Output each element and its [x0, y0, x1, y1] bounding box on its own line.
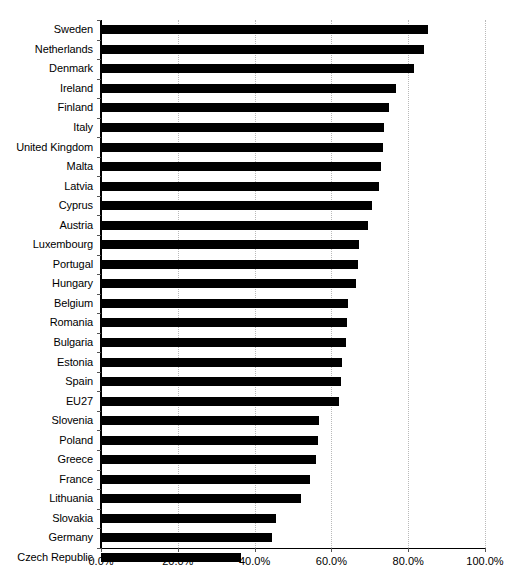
bar-row [101, 313, 485, 333]
bar-portugal [101, 260, 358, 269]
plot-area [101, 20, 485, 548]
bar-hungary [101, 279, 356, 288]
y-axis-label-row: Germany [0, 528, 101, 548]
bar-united-kingdom [101, 143, 383, 152]
bar-row [101, 352, 485, 372]
y-axis-label-spain: Spain [65, 376, 101, 387]
gridline-100.0% [485, 20, 487, 548]
bar-row [101, 333, 485, 353]
y-axis-label-row: Belgium [0, 294, 101, 314]
x-axis-label-0.0%: 0.0% [88, 555, 113, 567]
bar-luxembourg [101, 240, 359, 249]
y-axis-label-malta: Malta [67, 161, 101, 172]
bar-bulgaria [101, 338, 346, 347]
x-axis-tick [408, 548, 409, 552]
y-axis-label-row: Ireland [0, 79, 101, 99]
y-axis-label-austria: Austria [59, 220, 101, 231]
y-axis-label-united-kingdom: United Kingdom [16, 142, 101, 153]
y-axis-label-row: Portugal [0, 255, 101, 275]
y-axis-label-poland: Poland [59, 435, 101, 446]
y-axis-label-row: Slovenia [0, 411, 101, 431]
bar-chart: SwedenNetherlandsDenmarkIrelandFinlandIt… [0, 0, 512, 579]
y-axis-label-latvia: Latvia [64, 181, 101, 192]
y-axis-label-row: Denmark [0, 59, 101, 79]
bar-eu27 [101, 397, 339, 406]
y-axis-label-row: Italy [0, 118, 101, 138]
y-axis-label-row: Spain [0, 372, 101, 392]
bar-row [101, 20, 485, 40]
bar-netherlands [101, 45, 424, 54]
y-axis-label-germany: Germany [48, 532, 101, 543]
x-axis-tick [255, 548, 256, 552]
y-axis-label-row: France [0, 470, 101, 490]
y-axis-label-denmark: Denmark [49, 63, 101, 74]
y-axis-label-luxembourg: Luxembourg [33, 239, 101, 250]
bar-row [101, 470, 485, 490]
bar-sweden [101, 25, 428, 34]
y-axis-label-row: Cyprus [0, 196, 101, 216]
y-axis-label-bulgaria: Bulgaria [53, 337, 101, 348]
bar-germany [101, 533, 272, 542]
y-axis-label-slovakia: Slovakia [52, 513, 101, 524]
y-axis-label-row: Malta [0, 157, 101, 177]
x-axis-label-20.0%: 20.0% [162, 555, 193, 567]
y-axis-label-row: Romania [0, 313, 101, 333]
bar-austria [101, 221, 368, 230]
bar-slovakia [101, 514, 276, 523]
chart-title [0, 0, 512, 6]
bar-row [101, 274, 485, 294]
bar-denmark [101, 64, 414, 73]
x-axis-label-60.0%: 60.0% [316, 555, 347, 567]
y-axis-label-greece: Greece [58, 454, 101, 465]
bar-belgium [101, 299, 348, 308]
bar-row [101, 450, 485, 470]
bar-estonia [101, 358, 342, 367]
y-axis-label-ireland: Ireland [60, 83, 101, 94]
y-axis-label-row: Hungary [0, 274, 101, 294]
x-axis-label-80.0%: 80.0% [393, 555, 424, 567]
y-axis-label-row: Latvia [0, 176, 101, 196]
bar-row [101, 509, 485, 529]
bar-romania [101, 318, 347, 327]
y-axis-label-sweden: Sweden [54, 24, 101, 35]
y-axis-label-france: France [59, 474, 101, 485]
y-axis-label-row: Estonia [0, 352, 101, 372]
y-axis-label-italy: Italy [73, 122, 101, 133]
bar-row [101, 372, 485, 392]
y-axis-label-lithuania: Lithuania [49, 493, 101, 504]
bar-row [101, 430, 485, 450]
y-axis-label-belgium: Belgium [54, 298, 101, 309]
bar-ireland [101, 84, 396, 93]
bar-row [101, 157, 485, 177]
bar-row [101, 176, 485, 196]
bar-row [101, 98, 485, 118]
bar-row [101, 528, 485, 548]
y-axis-label-row: EU27 [0, 391, 101, 411]
bar-cyprus [101, 201, 372, 210]
bar-finland [101, 103, 389, 112]
bar-row [101, 196, 485, 216]
y-axis-label-row: Poland [0, 430, 101, 450]
bar-poland [101, 436, 318, 445]
y-axis-label-slovenia: Slovenia [52, 415, 101, 426]
bar-row [101, 79, 485, 99]
y-axis-label-netherlands: Netherlands [35, 44, 101, 55]
y-axis-label-portugal: Portugal [53, 259, 101, 270]
y-axis-label-row: Luxembourg [0, 235, 101, 255]
bar-lithuania [101, 494, 301, 503]
y-axis-label-row: Greece [0, 450, 101, 470]
x-axis-label-40.0%: 40.0% [239, 555, 270, 567]
bar-slovenia [101, 416, 319, 425]
y-axis-label-row: Lithuania [0, 489, 101, 509]
y-axis-label-finland: Finland [58, 102, 101, 113]
y-axis-label-romania: Romania [50, 317, 101, 328]
y-axis-label-row: Bulgaria [0, 333, 101, 353]
bar-row [101, 255, 485, 275]
bar-row [101, 391, 485, 411]
y-axis-label-hungary: Hungary [52, 278, 101, 289]
bar-latvia [101, 182, 379, 191]
y-axis-labels: SwedenNetherlandsDenmarkIrelandFinlandIt… [0, 20, 101, 548]
bar-row [101, 40, 485, 60]
x-axis-label-100.0%: 100.0% [466, 555, 503, 567]
bar-france [101, 475, 310, 484]
